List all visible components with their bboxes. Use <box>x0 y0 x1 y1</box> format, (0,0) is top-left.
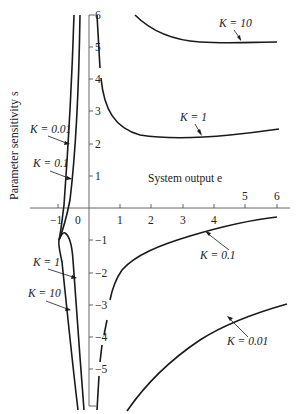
x-axis-title: System output e <box>148 172 222 185</box>
y-tick-m1: −1 <box>95 234 107 246</box>
axes <box>30 15 290 406</box>
x-tick-m1: −1 <box>50 214 62 226</box>
label-k1-left: K = 1 <box>32 256 60 268</box>
curves <box>59 15 287 411</box>
label-k01-right: K = 0.1 <box>199 249 236 261</box>
x-tick-6: 6 <box>274 190 280 202</box>
sensitivity-chart: −1 0 1 2 3 4 5 6 6 5 4 3 2 1 −1 −2 −3 −4… <box>0 0 299 414</box>
x-tick-1: 1 <box>117 214 123 226</box>
label-k10-top: K = 10 <box>218 17 252 29</box>
x-tick-3: 3 <box>180 214 186 226</box>
label-k001-left: K = 0.01 <box>29 123 71 135</box>
y-tick-1: 1 <box>95 170 101 182</box>
y-tick-m4: −4 <box>95 331 107 343</box>
label-k001-right: K = 0.01 <box>226 335 268 347</box>
y-tick-m5: −5 <box>95 363 107 375</box>
x-tick-5: 5 <box>242 190 248 202</box>
y-tick-m3: −3 <box>95 299 107 311</box>
label-k1-top: K = 1 <box>179 111 207 123</box>
y-tick-3: 3 <box>95 105 101 117</box>
label-k10-left: K = 10 <box>27 287 61 299</box>
y-tick-labels: 6 5 4 3 2 1 −1 −2 −3 −4 −5 <box>95 9 107 375</box>
curve-k10-right <box>135 15 277 43</box>
label-k01-left: K = 0.1 <box>32 157 69 169</box>
curve-k10-left <box>59 240 78 410</box>
x-tick-4: 4 <box>211 214 217 226</box>
curve-k001-right <box>127 304 287 411</box>
curve-k1-right <box>101 78 279 138</box>
curve-k01-dash-2 <box>100 345 102 362</box>
x-tick-2: 2 <box>148 214 154 226</box>
curve-k01-dash-3 <box>97 376 99 410</box>
curve-k1-left <box>59 233 84 410</box>
curve-k01-right <box>110 217 277 300</box>
y-tick-m2: −2 <box>95 267 107 279</box>
y-tick-2: 2 <box>95 138 101 150</box>
y-axis-title: Parameter sensitivity s <box>7 91 21 200</box>
y-tick-4: 4 <box>95 73 101 85</box>
x-tick-0: 0 <box>75 214 81 226</box>
